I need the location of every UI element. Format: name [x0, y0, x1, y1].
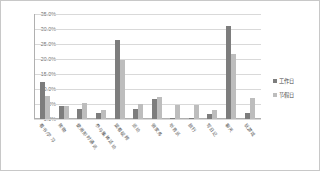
bar[interactable]	[101, 110, 106, 119]
x-axis-tick-label: 购物	[57, 122, 68, 134]
x-axis-tick-slot: 使用即时通讯	[73, 120, 92, 170]
x-axis-tick-slot: 做家务	[147, 120, 166, 170]
bar[interactable]	[212, 110, 217, 119]
x-axis-tick-label: 运动	[131, 122, 142, 134]
bar[interactable]	[250, 98, 255, 119]
chart-legend: 工作日 节假日	[273, 77, 294, 98]
x-axis-tick-slot: 购物	[55, 120, 74, 170]
x-axis-tick-label: 写日记	[206, 122, 220, 138]
bar-group	[203, 14, 222, 119]
bar[interactable]	[194, 105, 199, 119]
x-axis-tick-label: 玩游戏	[243, 122, 257, 138]
x-axis-tick-slot: 玩游戏	[240, 120, 259, 170]
bar-group	[55, 14, 74, 119]
bar-group	[73, 14, 92, 119]
x-axis-tick-slot: 听音乐	[166, 120, 185, 170]
bar[interactable]	[175, 105, 180, 119]
x-axis-tick-slot: 聊天	[222, 120, 241, 170]
bar[interactable]	[157, 97, 162, 119]
bar-group	[92, 14, 111, 119]
legend-swatch-icon	[273, 93, 277, 97]
x-axis-tick-label: 旅行	[187, 122, 198, 134]
bar-group	[166, 14, 185, 119]
x-axis-tick-label: 聊天	[224, 122, 235, 134]
bar-group	[185, 14, 204, 119]
x-axis-tick-label: 听音乐	[169, 122, 183, 138]
legend-item-series-1[interactable]: 节假日	[273, 91, 294, 98]
x-axis-tick-slot: 写日记	[203, 120, 222, 170]
bar[interactable]	[120, 60, 125, 119]
bar[interactable]	[138, 104, 143, 119]
x-axis-tick-slot: 旅行	[185, 120, 204, 170]
bar-groups	[34, 14, 261, 119]
x-axis-tick-slot: 运动	[129, 120, 148, 170]
bar[interactable]	[64, 106, 69, 119]
bar-chart: 35.0%30.0%25.0%20.0%15.0%10.0%5.0%0.0% 看…	[0, 0, 320, 171]
x-axis-tick-label: 观看视频	[113, 122, 131, 142]
x-axis-tick-slot: 参与集体活动	[92, 120, 111, 170]
legend-swatch-icon	[273, 79, 277, 83]
bar-group	[129, 14, 148, 119]
legend-label: 节假日	[279, 91, 294, 98]
bar[interactable]	[82, 103, 87, 119]
bar-group	[147, 14, 166, 119]
legend-label: 工作日	[279, 77, 294, 84]
bar[interactable]	[45, 96, 50, 119]
plot-area	[34, 14, 261, 119]
x-axis-tick-label: 做家务	[150, 122, 164, 138]
x-axis-tick-slot: 观看视频	[110, 120, 129, 170]
bar-group	[36, 14, 55, 119]
bar[interactable]	[231, 54, 236, 119]
x-axis-tick-slot: 看书/学习	[36, 120, 55, 170]
bar-group	[240, 14, 259, 119]
legend-item-series-0[interactable]: 工作日	[273, 77, 294, 84]
bar-group	[222, 14, 241, 119]
bar-group	[110, 14, 129, 119]
x-axis-tick-labels: 看书/学习购物使用即时通讯参与集体活动观看视频运动做家务听音乐旅行写日记聊天玩游…	[34, 120, 261, 170]
